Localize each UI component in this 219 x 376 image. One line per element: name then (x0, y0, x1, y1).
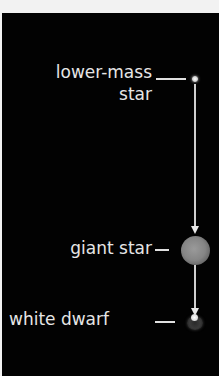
label-white-dwarf: white dwarf (9, 309, 109, 329)
label-lower-mass-star-line1: lower-mass (56, 62, 152, 82)
giant-star-icon (181, 236, 210, 265)
evolution-arrowhead-1 (191, 226, 199, 234)
leader-line-lower-mass-star (156, 78, 186, 80)
label-lower-mass-star-line2: star (119, 84, 152, 104)
leader-line-white-dwarf (155, 321, 175, 323)
white-dwarf-icon (191, 314, 198, 321)
label-giant-star: giant star (70, 238, 152, 258)
lower-mass-star-icon (192, 76, 198, 82)
evolution-arrow-line-1 (194, 84, 196, 228)
leader-line-giant-star (155, 249, 169, 251)
figure-canvas: lower-mass star giant star white dwarf (0, 0, 219, 376)
evolution-arrow-line-2 (194, 265, 196, 313)
